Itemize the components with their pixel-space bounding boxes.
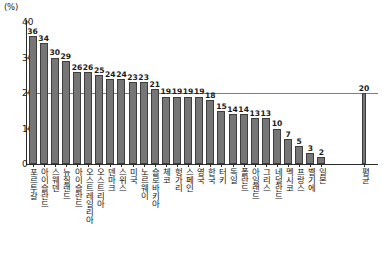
bar-slot: 2: [317, 18, 325, 164]
bar-value-label: 7: [285, 131, 290, 139]
x-axis-tick-mark: [244, 164, 245, 167]
x-axis-category-label: 아이슬란드: [39, 168, 48, 208]
bar: 14: [240, 114, 248, 164]
bar: 18: [206, 100, 214, 164]
bar-value-label: 23: [138, 74, 149, 82]
bar-value-label: 15: [216, 103, 227, 111]
x-axis-category-label: 프랑스: [295, 168, 304, 192]
x-axis-category-label: 헝가리: [172, 168, 181, 192]
bar-value-label: 29: [61, 53, 72, 61]
bar-value-label: 13: [249, 110, 260, 118]
bar-value-label: 24: [116, 71, 127, 79]
x-axis-category-label: 오스트레일리아: [84, 168, 93, 224]
bar: 3: [306, 153, 314, 164]
bar: 19: [195, 97, 203, 164]
bar: 19: [184, 97, 192, 164]
bar: 20: [362, 93, 367, 164]
x-axis-category-label: 오스트리아: [95, 168, 104, 208]
bar-slot: 7: [284, 18, 292, 164]
x-axis-category-labels: 포르투갈아이슬란드스웨덴뉴질랜드아이슬란드오스트레일리아오스트리아덴마크스위스미…: [27, 168, 378, 274]
bar: 5: [295, 146, 303, 164]
bar-slot: 13: [262, 18, 270, 164]
x-axis-category-label: 미국: [128, 168, 137, 184]
x-axis-category-label: 노르웨이: [139, 168, 148, 200]
bar: 14: [229, 114, 237, 164]
x-axis-category-label: 폴란드: [239, 168, 248, 192]
x-axis-category-label: 덴마크: [106, 168, 115, 192]
x-axis-tick-mark: [77, 164, 78, 167]
x-axis-tick-mark: [255, 164, 256, 167]
x-axis-category-label: 영국: [195, 168, 204, 184]
bar-slot: 30: [51, 18, 59, 164]
bar: 23: [129, 82, 137, 164]
bar-value-label: 26: [72, 64, 83, 72]
x-axis-tick-mark: [188, 164, 189, 167]
bar: 25: [95, 75, 103, 164]
x-axis-tick-mark: [144, 164, 145, 167]
x-axis-tick-mark: [364, 164, 365, 167]
x-axis-category-label: 스웨덴: [50, 168, 59, 192]
bar-slot: 24: [106, 18, 114, 164]
bar-slot: 34: [40, 18, 48, 164]
bar-value-label: 21: [149, 81, 160, 89]
bar: 24: [117, 79, 125, 164]
x-axis-tick-mark: [44, 164, 45, 167]
x-axis-tick-mark: [121, 164, 122, 167]
bar-value-label: 19: [183, 88, 194, 96]
bar-value-label: 14: [238, 106, 249, 114]
bar-series: 3634302926262524242323211919191918151414…: [27, 18, 378, 164]
bar-value-label: 5: [297, 138, 302, 146]
bar: 13: [251, 118, 259, 164]
bar: 29: [62, 61, 70, 164]
x-axis-tick-mark: [88, 164, 89, 167]
x-axis-tick-mark: [166, 164, 167, 167]
bar-slot: 10: [273, 18, 281, 164]
x-axis-tick-mark: [266, 164, 267, 167]
x-axis-category-label: 체코: [161, 168, 170, 184]
bar-slot: 19: [195, 18, 203, 164]
bar-slot: 20: [362, 18, 367, 164]
x-axis-tick-mark: [110, 164, 111, 167]
bar: 26: [84, 72, 92, 164]
bar: 21: [151, 89, 159, 164]
x-axis-tick-mark: [199, 164, 200, 167]
x-axis-line: [26, 164, 378, 165]
bar-value-label: 23: [127, 74, 138, 82]
x-axis-tick-mark: [33, 164, 34, 167]
bar-slot: 15: [217, 18, 225, 164]
bar-slot: 23: [140, 18, 148, 164]
bar-value-label: 30: [49, 49, 60, 57]
x-axis-tick-mark: [288, 164, 289, 167]
x-axis-category-label: 슬로바키아: [150, 168, 159, 208]
bar: 24: [106, 79, 114, 164]
bar-value-label: 2: [319, 149, 324, 157]
bar-slot: 26: [73, 18, 81, 164]
x-axis-category-label: 포르투갈: [28, 168, 37, 200]
bar-slot: 14: [240, 18, 248, 164]
x-axis-category-label: 아일랜드: [250, 168, 259, 200]
bar-chart: (%) 010203040 36343029262625242423232119…: [0, 0, 382, 276]
bar: 7: [284, 139, 292, 164]
bar-value-label: 24: [105, 71, 116, 79]
bar: 2: [317, 157, 325, 164]
x-axis-tick-mark: [133, 164, 134, 167]
bar-value-label: 36: [27, 28, 38, 36]
bar-slot: 25: [95, 18, 103, 164]
bar-value-label: 14: [227, 106, 238, 114]
bar: 13: [262, 118, 270, 164]
x-axis-tick-mark: [221, 164, 222, 167]
bar-slot: 21: [151, 18, 159, 164]
x-axis-tick-mark: [99, 164, 100, 167]
bar: 36: [29, 36, 37, 164]
bar-value-label: 18: [205, 92, 216, 100]
x-axis-tick-mark: [155, 164, 156, 167]
x-axis-tick-mark: [55, 164, 56, 167]
x-axis-category-label: 아이슬란드: [72, 168, 81, 208]
x-axis-category-label: 그리스: [261, 168, 270, 192]
x-axis-tick-mark: [177, 164, 178, 167]
x-axis-category-label: 독일: [228, 168, 237, 184]
x-axis-category-label: 네덜란드: [272, 168, 281, 200]
x-axis-category-label: 스페인: [184, 168, 193, 192]
bar-slot: 36: [29, 18, 37, 164]
bar-slot: 19: [173, 18, 181, 164]
